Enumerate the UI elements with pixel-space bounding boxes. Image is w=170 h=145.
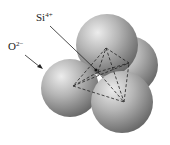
tetrahedron-figure — [0, 0, 170, 145]
sio4-tetrahedron-diagram: Si4+ O2− — [0, 0, 170, 145]
oxygen-pointer-arrow — [25, 55, 43, 69]
oxygen-sphere-front — [91, 71, 153, 133]
oxygen-label: O2− — [8, 41, 23, 52]
oxygen-sphere-left — [41, 59, 99, 117]
silicon-label: Si4+ — [36, 12, 53, 23]
